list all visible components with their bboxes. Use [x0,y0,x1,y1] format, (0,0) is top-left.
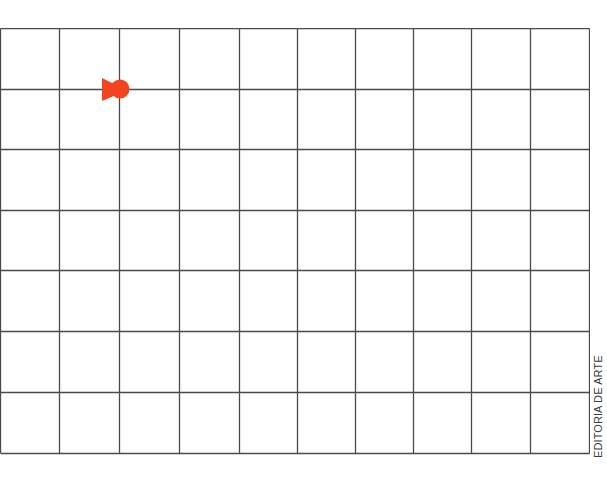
grid-lines [0,28,590,456]
grid-board [0,28,590,454]
credit-label: EDITORIA DE ARTE [592,355,604,458]
pawn-arrow-icon [101,77,131,103]
